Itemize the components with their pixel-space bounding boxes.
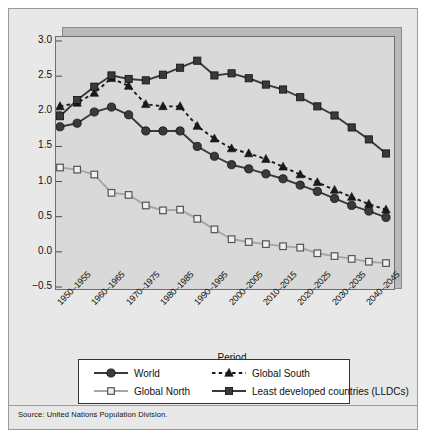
chart-canvas [56, 37, 396, 291]
series-world [56, 103, 390, 222]
data-point-marker [366, 258, 373, 265]
series-line [60, 168, 386, 264]
data-point-marker [348, 124, 355, 131]
data-point-marker [348, 201, 356, 209]
data-point-marker [262, 81, 269, 88]
y-tick-label: 3.0 [26, 35, 52, 45]
data-point-marker [108, 72, 115, 79]
legend-item: World [93, 367, 160, 379]
data-point-marker [296, 181, 304, 189]
data-point-marker [74, 96, 81, 103]
data-point-marker [314, 250, 321, 257]
data-point-marker [297, 244, 304, 251]
series-global-south [56, 74, 390, 213]
data-point-marker [297, 94, 304, 101]
data-point-marker [211, 226, 218, 233]
y-tick-label: −0.5 [26, 281, 52, 291]
data-point-marker [74, 166, 81, 173]
legend-item: Least developed countries (LLDCs) [211, 385, 409, 397]
data-point-marker [227, 161, 235, 169]
legend-swatch [211, 367, 247, 379]
data-point-marker [365, 136, 372, 143]
data-point-marker [159, 71, 166, 78]
data-point-marker [330, 194, 338, 202]
data-point-marker [194, 57, 201, 64]
series-global-north [57, 164, 390, 266]
chart-legend: WorldGlobal SouthGlobal NorthLeast devel… [78, 359, 350, 404]
data-point-marker [142, 77, 149, 84]
data-point-marker [211, 72, 218, 79]
data-point-marker [125, 111, 133, 119]
data-point-marker [347, 192, 355, 200]
legend-swatch [93, 385, 129, 397]
data-point-marker [279, 175, 287, 183]
data-point-marker [210, 152, 218, 160]
data-point-marker [160, 207, 167, 214]
figure-root: Annual growth rate (percentage) 3.02.52.… [0, 0, 428, 441]
y-tick-label: 2.0 [26, 105, 52, 115]
data-point-marker [348, 256, 355, 263]
data-point-marker [330, 185, 338, 193]
data-point-marker [314, 103, 321, 110]
y-tick-label: 0.0 [26, 246, 52, 256]
data-point-marker [176, 127, 184, 135]
data-point-marker [177, 206, 184, 213]
data-point-marker [159, 127, 167, 135]
data-point-marker [194, 216, 201, 223]
data-point-marker [193, 121, 201, 129]
legend-swatch [211, 385, 247, 397]
data-point-marker [262, 170, 270, 178]
data-point-marker [142, 127, 150, 135]
data-point-marker [57, 164, 64, 171]
data-point-marker [245, 165, 253, 173]
data-point-marker [331, 112, 338, 119]
data-point-marker [108, 190, 115, 197]
data-point-marker [91, 171, 98, 178]
data-point-marker [263, 241, 270, 248]
data-point-marker [73, 119, 81, 127]
data-point-marker [125, 75, 132, 82]
source-divider [8, 405, 418, 406]
data-point-marker [228, 236, 235, 243]
data-point-marker [245, 149, 253, 157]
data-point-marker [331, 253, 338, 260]
series-least-developed-countries-lldcs [56, 57, 389, 157]
data-point-marker [225, 387, 232, 394]
legend-label: Least developed countries (LLDCs) [252, 386, 409, 397]
y-tick-label: 1.5 [26, 140, 52, 150]
legend-label: Global South [252, 368, 310, 379]
data-point-marker [313, 187, 321, 195]
legend-swatch [93, 367, 129, 379]
legend-label: Global North [134, 386, 190, 397]
legend-label: World [134, 368, 160, 379]
y-tick-label: 0.5 [26, 211, 52, 221]
data-point-marker [279, 86, 286, 93]
data-point-marker [383, 260, 390, 267]
data-point-marker [245, 239, 252, 246]
y-axis-tick-labels: 3.02.52.01.51.00.50.0−0.5 [22, 36, 52, 290]
data-point-marker [382, 150, 389, 157]
data-point-marker [142, 202, 149, 209]
legend-item: Global North [93, 385, 190, 397]
data-point-marker [56, 123, 64, 131]
data-point-marker [210, 134, 218, 142]
data-point-marker [56, 113, 63, 120]
data-point-marker [125, 192, 132, 199]
data-point-marker [228, 70, 235, 77]
data-point-marker [107, 369, 115, 377]
data-point-marker [382, 213, 390, 221]
plot-area [55, 36, 395, 290]
data-point-marker [280, 243, 287, 250]
data-point-marker [177, 64, 184, 71]
data-point-marker [365, 207, 373, 215]
data-point-marker [262, 154, 270, 162]
data-point-marker [91, 83, 98, 90]
data-point-marker [107, 103, 115, 111]
y-tick-label: 1.0 [26, 176, 52, 186]
data-point-marker [142, 100, 150, 108]
data-point-marker [108, 388, 115, 395]
data-point-marker [90, 108, 98, 116]
source-note: Source: United Nations Population Divisi… [18, 410, 167, 419]
y-tick-label: 2.5 [26, 70, 52, 80]
data-point-marker [193, 142, 201, 150]
